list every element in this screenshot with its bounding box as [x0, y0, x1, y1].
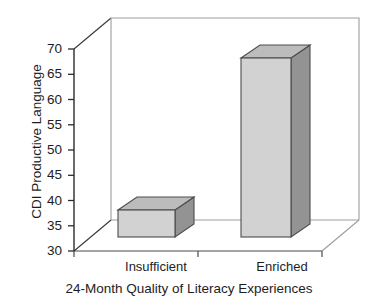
back-wall-frame	[111, 18, 359, 220]
floor-right-edge	[322, 220, 359, 251]
bar-insufficient[interactable]	[118, 197, 194, 237]
bar-enriched-front	[241, 58, 291, 237]
y-tick-label-30: 30	[28, 244, 62, 258]
y-axis-ticks	[68, 49, 74, 251]
x-axis-ticks	[74, 251, 322, 257]
bar-enriched-side	[291, 45, 310, 237]
x-axis-title: 24-Month Quality of Literacy Experiences	[0, 281, 378, 296]
x-tick-label-enriched: Enriched	[222, 260, 342, 273]
wall-left-depth-edge	[74, 18, 111, 49]
x-tick-label-insufficient: Insufficient	[96, 260, 216, 273]
bar-insufficient-front	[118, 210, 175, 237]
y-axis-title: CDI Productive Language	[29, 42, 44, 242]
floor-left-depth-edge	[74, 220, 111, 251]
bar-chart-figure: 70 65 60 55 50 45 40 35 30 Insufficient …	[0, 0, 378, 307]
bar-enriched[interactable]	[241, 45, 310, 237]
